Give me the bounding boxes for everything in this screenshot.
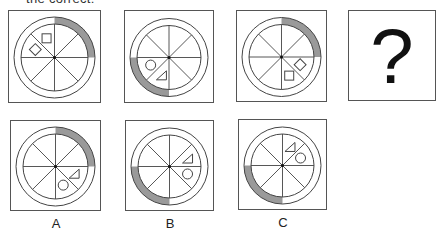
option-a-label[interactable]: A [46, 216, 66, 231]
question-panel-2 [124, 10, 214, 103]
triangle-icon [183, 154, 193, 163]
circle-icon [146, 60, 156, 70]
option-c-panel[interactable] [238, 119, 327, 210]
triangle-icon [69, 169, 79, 178]
diamond-icon [29, 44, 41, 56]
wheel-diagram [126, 121, 213, 210]
option-b-panel[interactable] [125, 120, 214, 211]
wheel-diagram [239, 120, 326, 209]
instruction-text-clipped: the correct: [26, 0, 95, 6]
option-b-label[interactable]: B [160, 216, 180, 231]
question-panel-unknown: ? [348, 10, 436, 101]
option-c-label[interactable]: C [273, 215, 293, 230]
circle-icon [58, 180, 68, 190]
question-mark-icon: ? [349, 11, 435, 100]
wheel-diagram [237, 11, 326, 101]
triangle-icon [285, 142, 295, 151]
circle-icon [296, 153, 306, 163]
option-a-panel[interactable] [10, 120, 101, 211]
square-icon [285, 71, 294, 80]
square-icon [42, 34, 51, 43]
diamond-icon [294, 59, 306, 71]
triangle-icon [156, 71, 166, 80]
question-panel-3 [236, 10, 327, 102]
circle-icon [183, 169, 193, 179]
wheel-diagram [11, 121, 100, 210]
question-panel-1 [8, 10, 101, 103]
wheel-diagram [125, 11, 213, 102]
wheel-diagram [9, 11, 100, 102]
